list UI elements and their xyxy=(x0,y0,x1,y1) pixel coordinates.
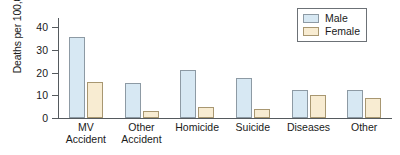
x-axis-line xyxy=(58,118,392,119)
bar-male-4 xyxy=(292,90,308,118)
bar-female-1 xyxy=(143,111,159,119)
legend-label-female: Female xyxy=(325,26,360,37)
bar-female-3 xyxy=(254,109,270,118)
bar-female-0 xyxy=(87,82,103,118)
category-label: Other xyxy=(336,122,392,134)
legend-swatch-female-icon xyxy=(303,27,319,36)
bar-chart: Deaths per 100,000 010203040 MV Accident… xyxy=(0,0,400,155)
category-label: Other Accident xyxy=(114,122,170,145)
bar-female-2 xyxy=(198,107,214,118)
bar-male-5 xyxy=(347,90,363,118)
bar-male-3 xyxy=(236,78,252,118)
bar-female-5 xyxy=(365,98,381,118)
y-tick-label: 30 xyxy=(8,45,48,56)
legend-item-male: Male xyxy=(303,12,360,25)
category-label: Diseases xyxy=(281,122,337,134)
category-label: MV Accident xyxy=(58,122,114,145)
legend-label-male: Male xyxy=(325,13,348,24)
category-label: Suicide xyxy=(225,122,281,134)
chart-legend: Male Female xyxy=(297,8,367,42)
bar-male-0 xyxy=(69,37,85,118)
bar-female-4 xyxy=(310,95,326,118)
bar-male-1 xyxy=(125,83,141,118)
y-tick-label: 20 xyxy=(8,68,48,79)
y-tick-label: 40 xyxy=(8,22,48,33)
y-tick-mark xyxy=(52,118,58,119)
y-tick-label: 0 xyxy=(8,113,48,124)
category-label: Homicide xyxy=(169,122,225,134)
legend-swatch-male-icon xyxy=(303,14,319,23)
legend-item-female: Female xyxy=(303,25,360,38)
y-tick-label: 10 xyxy=(8,90,48,101)
bar-male-2 xyxy=(180,70,196,118)
